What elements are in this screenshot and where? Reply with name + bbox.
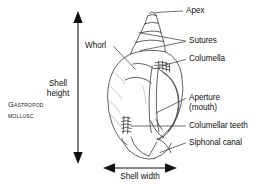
label-sutures: Sutures <box>189 36 217 46</box>
shell-width-arrow <box>105 164 176 172</box>
shell-growth-lines <box>108 72 146 127</box>
leader-apex <box>156 11 183 13</box>
shell-spire <box>131 12 166 54</box>
label-columellar-teeth: Columellar teeth <box>189 121 248 131</box>
shell-height-label-line2: height <box>40 89 76 100</box>
label-columella: Columella <box>189 54 225 64</box>
gastropod-shell-diagram: Gastropod mollusc Shell height Shell wid… <box>0 0 271 186</box>
label-apex: Apex <box>186 6 204 16</box>
shell-height-label-line1: Shell <box>40 79 76 90</box>
leader-sutures-upper <box>139 33 186 41</box>
label-siphonal-canal: Siphonal canal <box>189 138 242 148</box>
shell-siphonal-canal <box>122 137 172 159</box>
figure-caption-line1: Gastropod <box>8 99 44 111</box>
leader-siphonal-canal <box>160 143 186 153</box>
shell-width-label: Shell width <box>100 172 180 183</box>
label-aperture: Aperture <box>189 93 220 103</box>
shell-aperture <box>151 70 179 139</box>
label-aperture-sub: (mouth) <box>189 103 217 113</box>
figure-caption-line2: mollusc <box>8 110 34 122</box>
leader-sutures-lower <box>141 42 186 51</box>
leader-columella <box>161 60 186 67</box>
shell-columellar-teeth <box>122 116 132 133</box>
label-whorl: Whorl <box>85 41 106 51</box>
